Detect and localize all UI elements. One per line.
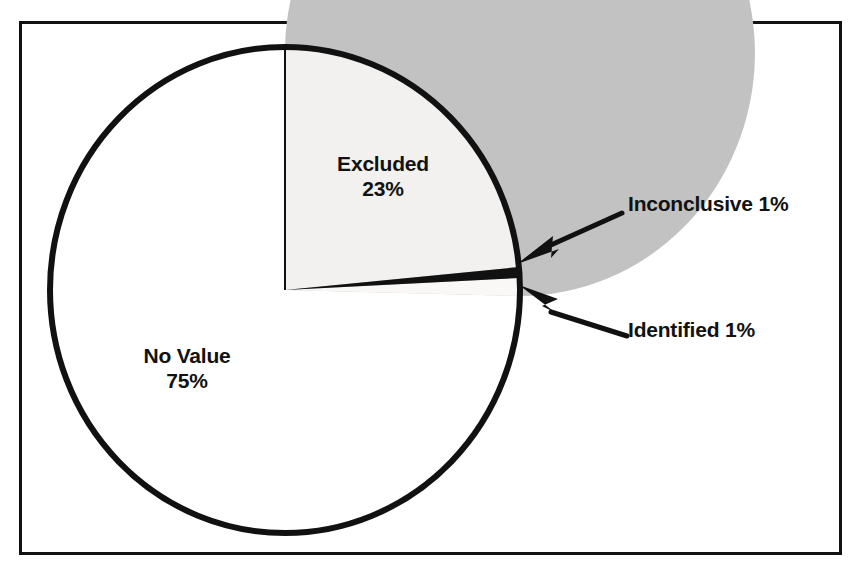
pie-label-no-value-value: 75% bbox=[92, 369, 282, 394]
pie-label-excluded-value: 23% bbox=[303, 177, 463, 202]
pie-label-no-value-name: No Value bbox=[143, 344, 230, 367]
pie-callout-label-inconclusive: Inconclusive 1% bbox=[628, 192, 788, 216]
callout-leader-identified bbox=[551, 312, 627, 336]
pie-label-no-value: No Value 75% bbox=[92, 344, 282, 394]
pie-chart-graphic bbox=[0, 0, 852, 572]
pie-label-excluded-name: Excluded bbox=[337, 152, 429, 175]
pie-label-excluded: Excluded 23% bbox=[303, 152, 463, 202]
pie-callout-label-identified: Identified 1% bbox=[628, 318, 755, 342]
pie-chart-figure: Excluded 23% No Value 75% Inconclusive 1… bbox=[0, 0, 852, 572]
